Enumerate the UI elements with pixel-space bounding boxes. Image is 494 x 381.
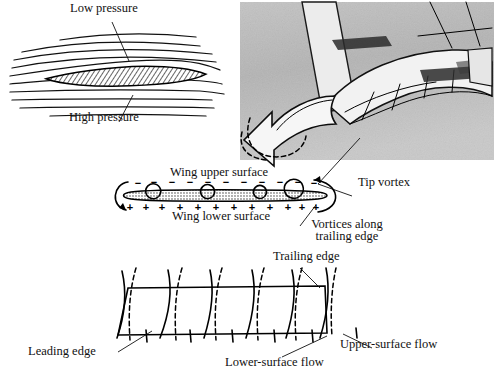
svg-text:−: − [151, 176, 157, 188]
label-wing-upper-surface: Wing upper surface [170, 166, 268, 179]
label-tip-vortex: Tip vortex [358, 176, 410, 189]
streamline [20, 107, 214, 108]
svg-text:+: + [143, 201, 149, 213]
label-wing-lower-surface: Wing lower surface [172, 210, 270, 223]
svg-text:+: + [159, 201, 165, 213]
lower-surface-flow-leader [282, 336, 327, 357]
streamline [12, 99, 212, 100]
svg-text:+: + [285, 201, 291, 213]
svg-text:−: − [277, 176, 283, 188]
label-vortices-trailing-edge: trailing edge [301, 230, 393, 243]
panel-airfoil-section [10, 22, 224, 122]
panel-planform [117, 268, 372, 357]
label-upper-surface-flow: Upper-surface flow [340, 338, 437, 351]
svg-text:+: + [299, 201, 305, 213]
streamline [10, 90, 224, 94]
streamline [188, 80, 222, 84]
streamline [60, 34, 196, 40]
svg-text:+: + [127, 201, 133, 213]
label-trailing-edge: Trailing edge [273, 250, 340, 263]
wingtip-detail [468, 48, 492, 86]
svg-text:−: − [135, 177, 141, 189]
label-lower-surface-flow: Lower-surface flow [225, 356, 324, 369]
label-low-pressure: Low pressure [70, 2, 138, 15]
trailing-edge-leader [300, 268, 320, 288]
panel-wingtip-photo [240, 2, 494, 196]
figure-root: − − − − − − − − − − − + + + + + + + + + … [0, 0, 494, 381]
label-leading-edge: Leading edge [28, 345, 96, 358]
figure-canvas: − − − − − − − − − − − + + + + + + + + + … [0, 0, 494, 381]
lower-surface-flow-lines [129, 268, 336, 340]
label-high-pressure: High pressure [69, 111, 139, 124]
